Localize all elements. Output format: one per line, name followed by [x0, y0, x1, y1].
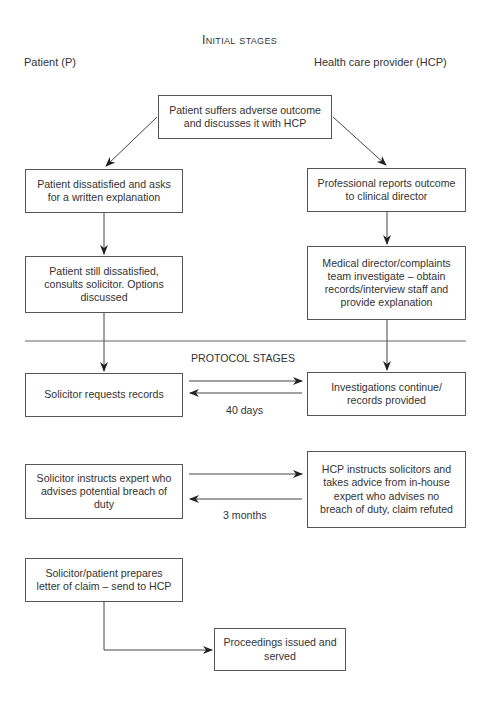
box-proceedings-text: Proceedings issued and served	[223, 636, 336, 662]
duration-expert: 3 months	[223, 509, 267, 521]
box-medical-director-text: Medical director/complaints team investi…	[322, 257, 450, 310]
box-reports-outcome-text: Professional reports outcome to clinical…	[318, 177, 456, 203]
box-hcp-instructs-text: HCP instructs solicitors and takes advic…	[320, 463, 453, 516]
box-solicitor-expert-text: Solicitor instructs expert who advises p…	[37, 472, 172, 512]
duration-records: 40 days	[226, 404, 263, 416]
box-investigations-continue: Investigations continue/ records provide…	[307, 372, 466, 416]
box-letter-of-claim-text: Solicitor/patient prepares letter of cla…	[37, 567, 172, 593]
protocol-stages-heading: PROTOCOL STAGES	[191, 352, 295, 364]
box-investigations-continue-text: Investigations continue/ records provide…	[331, 381, 442, 407]
box-dissatisfied-written: Patient dissatisfied and asks for a writ…	[25, 169, 183, 213]
box-adverse-outcome-text: Patient suffers adverse outcome and disc…	[169, 104, 321, 130]
box-solicitor-expert: Solicitor instructs expert who advises p…	[25, 464, 183, 519]
box-medical-director: Medical director/complaints team investi…	[307, 246, 466, 320]
box-letter-of-claim: Solicitor/patient prepares letter of cla…	[25, 558, 183, 602]
box-hcp-instructs: HCP instructs solicitors and takes advic…	[307, 451, 466, 528]
hcp-column-label: Health care provider (HCP)	[314, 56, 447, 68]
box-solicitor-requests-text: Solicitor requests records	[44, 388, 164, 401]
box-still-dissatisfied-text: Patient still dissatisfied, consults sol…	[44, 265, 164, 305]
box-dissatisfied-written-text: Patient dissatisfied and asks for a writ…	[37, 178, 171, 204]
box-solicitor-requests: Solicitor requests records	[25, 373, 183, 417]
initial-stages-text: Initial stages	[202, 33, 277, 47]
box-reports-outcome: Professional reports outcome to clinical…	[307, 168, 466, 212]
patient-column-label: Patient (P)	[24, 56, 76, 68]
box-adverse-outcome: Patient suffers adverse outcome and disc…	[158, 95, 332, 139]
initial-stages-heading: Initial stages	[202, 33, 277, 47]
box-still-dissatisfied: Patient still dissatisfied, consults sol…	[25, 256, 183, 313]
flowchart: Initial stages Patient (P) Health care p…	[0, 0, 490, 708]
box-proceedings: Proceedings issued and served	[214, 628, 346, 671]
